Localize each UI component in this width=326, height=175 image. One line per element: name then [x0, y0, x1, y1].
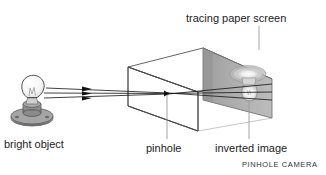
label-pinhole: pinhole: [146, 142, 181, 154]
bright-object: [11, 75, 53, 126]
label-inverted-image: inverted image: [215, 142, 287, 154]
label-tracing-paper-screen: tracing paper screen: [186, 12, 286, 24]
ray-arrowheads: [82, 87, 92, 101]
label-bright-object: bright object: [4, 138, 64, 150]
camera-box-front-face: [128, 67, 198, 131]
figure-caption: PINHOLE CAMERA: [242, 160, 318, 169]
tracing-paper-screen: [203, 48, 272, 118]
camera-box: [128, 48, 272, 131]
pinhole: [167, 92, 169, 94]
